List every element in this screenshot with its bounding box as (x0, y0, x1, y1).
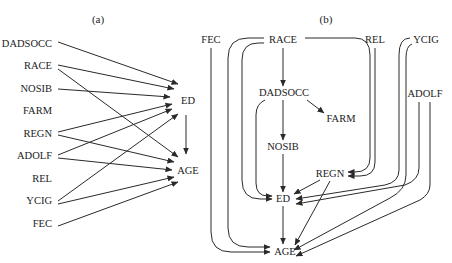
panel-b: (b) FEC RACE REL YCIG DADSOCC FARM ADOLF… (201, 13, 442, 257)
node-b-rel: REL (365, 34, 385, 45)
node-a-adolf: ADOLF (17, 150, 52, 161)
node-b-race: RACE (269, 34, 297, 45)
panel-b-edges (211, 38, 430, 256)
panel-a-edges (58, 42, 186, 226)
node-a-fec: FEC (33, 218, 52, 229)
node-b-dadsocc: DADSOCC (259, 87, 309, 98)
node-a-ed: ED (181, 95, 195, 106)
node-a-ycig: YCIG (26, 195, 52, 206)
node-a-rel: REL (32, 173, 52, 184)
node-a-nosib: NOSIB (20, 83, 52, 94)
node-a-race: RACE (24, 60, 52, 71)
node-a-farm: FARM (23, 105, 53, 116)
node-b-nosib: NOSIB (267, 141, 299, 152)
node-b-farm: FARM (327, 113, 357, 124)
node-b-ed: ED (276, 193, 290, 204)
node-b-ycig: YCIG (413, 34, 439, 45)
causal-graph-figure: (a) DADSOCC RACE NOSIB FARM REGN ADOLF R… (0, 0, 452, 263)
node-a-age: AGE (177, 165, 199, 176)
node-b-regn: REGN (316, 168, 345, 179)
panel-b-title: (b) (320, 13, 333, 26)
node-a-dadsocc: DADSOCC (2, 38, 52, 49)
node-b-adolf: ADOLF (407, 88, 442, 99)
node-a-regn: REGN (23, 128, 52, 139)
node-b-fec: FEC (201, 34, 220, 45)
node-b-age: AGE (274, 246, 296, 257)
panel-a-title: (a) (92, 13, 105, 26)
panel-a: (a) DADSOCC RACE NOSIB FARM REGN ADOLF R… (2, 13, 199, 229)
